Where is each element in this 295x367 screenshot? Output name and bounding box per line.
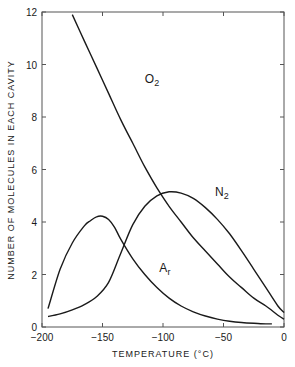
x-tick-label: −100	[152, 332, 175, 343]
x-axis-title: TEMPERATURE (°C)	[112, 349, 214, 359]
series-labels: O2N2Ar	[145, 72, 229, 277]
y-axis-title: NUMBER OF MOLECULES IN EACH CAVITY	[6, 60, 16, 279]
y-tick-label: 8	[31, 112, 37, 123]
y-tick-label: 12	[26, 7, 38, 18]
y-tick-label: 0	[31, 322, 37, 333]
x-tick-label: −200	[31, 332, 54, 343]
x-tick-label: −50	[215, 332, 232, 343]
series-label-n2: N2	[215, 185, 229, 201]
series-label-o2: O2	[145, 72, 159, 88]
curve-o2	[72, 15, 284, 320]
y-axis-ticks: 024681012	[26, 7, 284, 333]
data-curves	[48, 15, 284, 324]
y-tick-label: 4	[31, 217, 37, 228]
series-label-ar: Ar	[159, 261, 170, 277]
x-tick-label: −150	[91, 332, 114, 343]
plot-frame	[42, 12, 284, 327]
chart: −200−150−100−500 024681012 O2N2Ar TEMPER…	[0, 0, 295, 367]
y-tick-label: 10	[26, 60, 38, 71]
y-tick-label: 2	[31, 270, 37, 281]
curve-n2	[48, 192, 284, 317]
x-tick-label: 0	[281, 332, 287, 343]
y-tick-label: 6	[31, 165, 37, 176]
